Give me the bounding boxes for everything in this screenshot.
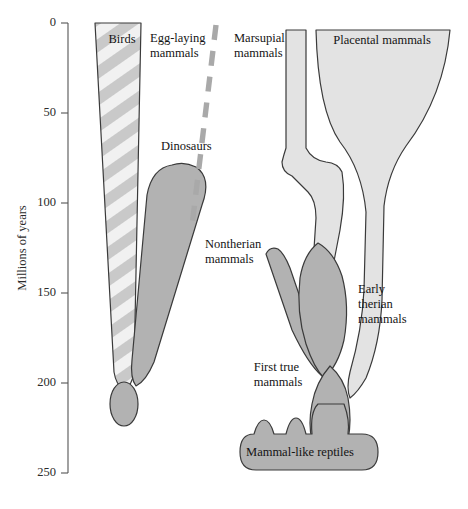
axis-tick-label-100: 100 [37, 195, 56, 209]
label-first-true-mammals-line-1: First true [254, 360, 300, 374]
label-early-therian-mammals-line-2: therian [358, 297, 393, 311]
clade-archosaur-root [110, 382, 138, 426]
label-birds: Birds [108, 32, 135, 46]
label-marsupial-mammals: Marsupial mammals [234, 31, 288, 60]
clade-dinosaurs [132, 163, 206, 386]
dinosaurs-shape [132, 163, 206, 386]
label-egg-laying-mammals-line-1: Egg-laying [150, 31, 206, 45]
early-therian-mammals-shape [299, 243, 347, 378]
label-marsupial-mammals-line-1: Marsupial [234, 31, 285, 45]
phylogeny-diagram: 0 50 100 150 200 250 Millions of years [0, 0, 468, 509]
label-nontherian-mammals: Nontherian mammals [205, 237, 264, 266]
label-nontherian-mammals-line-1: Nontherian [205, 237, 262, 251]
label-nontherian-mammals-line-2: mammals [205, 252, 254, 266]
axis-title: Millions of years [15, 205, 29, 291]
label-egg-laying-mammals: Egg-laying mammals [150, 31, 209, 60]
archosaur-root-shape [110, 382, 138, 426]
label-mammal-like-reptiles: Mammal-like reptiles [246, 445, 354, 459]
axis-tick-label-150: 150 [37, 285, 56, 299]
label-egg-laying-mammals-line-2: mammals [150, 46, 199, 60]
axis-tick-label-0: 0 [50, 15, 56, 29]
clade-mammal-like-reptiles [240, 404, 378, 470]
label-early-therian-mammals-line-3: mammals [358, 312, 407, 326]
axis-tick-label-250: 250 [37, 465, 56, 479]
label-early-therian-mammals: Early therian mammals [358, 282, 407, 326]
axis-tick-label-200: 200 [37, 375, 56, 389]
evolutionary-tree-figure: 0 50 100 150 200 250 Millions of years [0, 0, 468, 509]
mammal-like-reptiles-shape [240, 404, 378, 470]
axis-tick-label-50: 50 [44, 105, 57, 119]
label-first-true-mammals-line-2: mammals [254, 375, 303, 389]
label-placental-mammals: Placental mammals [333, 33, 431, 47]
label-dinosaurs: Dinosaurs [161, 139, 212, 153]
y-axis: 0 50 100 150 200 250 Millions of years [15, 15, 68, 479]
label-first-true-mammals: First true mammals [254, 360, 303, 389]
label-marsupial-mammals-line-2: mammals [234, 46, 283, 60]
label-early-therian-mammals-line-1: Early [358, 282, 386, 296]
clade-early-therian-mammals [299, 243, 347, 378]
